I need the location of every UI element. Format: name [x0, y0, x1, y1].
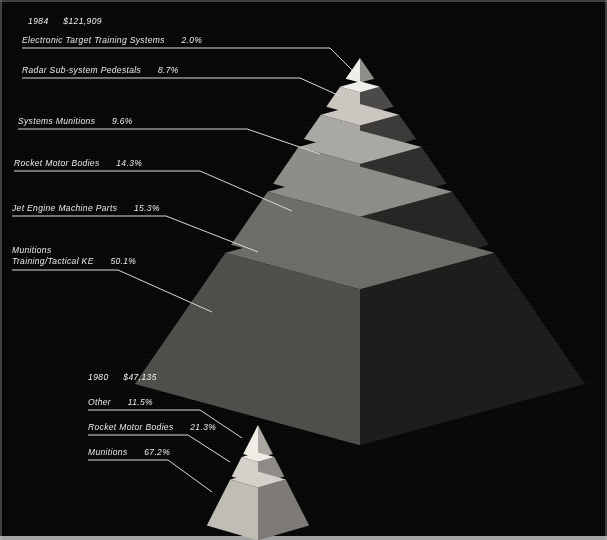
label-munitions-training-tactical-ke: Munitions Training/Tactical KE 50.1%: [12, 245, 136, 266]
amount-label-1980: $47,135: [123, 372, 157, 382]
label-percent: 8.7%: [158, 65, 179, 75]
pyramid-1980-header: 1980 $47,135: [88, 372, 157, 382]
amount-label-1984: $121,909: [63, 16, 102, 26]
label-percent: 9.6%: [112, 116, 133, 126]
label-text: Systems Munitions: [18, 116, 95, 126]
label-rocket-motor-bodies-1980: Rocket Motor Bodies 21.3%: [88, 422, 216, 433]
label-text: Electronic Target Training Systems: [22, 35, 165, 45]
label-text: Radar Sub-system Pedestals: [22, 65, 141, 75]
label-percent: 67.2%: [144, 447, 170, 457]
label-other: Other 11.5%: [88, 397, 153, 408]
label-text-line2: Training/Tactical KE: [12, 256, 94, 266]
label-percent: 14.3%: [116, 158, 142, 168]
label-percent: 15.3%: [134, 203, 160, 213]
label-text-line1: Munitions: [12, 245, 136, 256]
label-text: Jet Engine Machine Parts: [12, 203, 117, 213]
label-munitions-1980: Munitions 67.2%: [88, 447, 170, 458]
label-radar-sub-system-pedestals: Radar Sub-system Pedestals 8.7%: [22, 65, 179, 76]
label-text: Other: [88, 397, 111, 407]
leader-lines: [0, 0, 607, 540]
label-rocket-motor-bodies-1984: Rocket Motor Bodies 14.3%: [14, 158, 142, 169]
label-jet-engine-machine-parts: Jet Engine Machine Parts 15.3%: [12, 203, 160, 214]
pyramid-chart-figure: 1984 $121,909 Electronic Target Training…: [0, 0, 607, 540]
label-text: Rocket Motor Bodies: [14, 158, 100, 168]
label-percent: 11.5%: [128, 397, 153, 407]
label-text: Munitions: [88, 447, 128, 457]
label-text: Rocket Motor Bodies: [88, 422, 174, 432]
label-percent: 50.1%: [110, 256, 136, 266]
year-label-1984: 1984: [28, 16, 49, 26]
pyramid-1984-header: 1984 $121,909: [28, 16, 102, 26]
label-percent: 2.0%: [181, 35, 202, 45]
label-electronic-target-training-systems: Electronic Target Training Systems 2.0%: [22, 35, 202, 46]
year-label-1980: 1980: [88, 372, 109, 382]
label-systems-munitions: Systems Munitions 9.6%: [18, 116, 133, 127]
label-percent: 21.3%: [190, 422, 216, 432]
